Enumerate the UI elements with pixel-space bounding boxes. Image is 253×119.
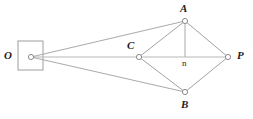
- node-C: [136, 54, 141, 59]
- geometry-figure: O C A P B n: [0, 0, 253, 119]
- point-label-O: O: [4, 50, 12, 61]
- edge-p-b: [185, 57, 228, 92]
- point-label-n: n: [182, 59, 187, 68]
- diagram-canvas: [0, 0, 253, 119]
- node-O: [28, 54, 33, 59]
- edge-a-p: [185, 21, 228, 57]
- node-B: [182, 89, 187, 94]
- point-label-C: C: [127, 40, 134, 51]
- node-A: [182, 18, 187, 23]
- node-P: [225, 54, 230, 59]
- point-label-B: B: [181, 99, 188, 110]
- point-label-P: P: [237, 50, 244, 61]
- point-label-A: A: [180, 3, 187, 14]
